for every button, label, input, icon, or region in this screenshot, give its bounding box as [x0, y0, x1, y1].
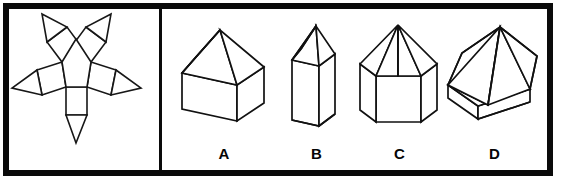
option-a-label: A: [174, 146, 274, 162]
net-pentagonal-prism-pyramid: [12, 14, 141, 143]
net-triangle-right: [111, 70, 141, 95]
options-panel: A: [162, 9, 547, 170]
net-triangle-bottom: [66, 115, 87, 143]
option-b[interactable]: B: [274, 9, 359, 170]
option-a-drawing: [174, 9, 274, 144]
option-c-drawing: [352, 9, 447, 144]
option-c-front-face: [376, 76, 421, 122]
option-b-drawing: [274, 9, 359, 144]
option-b-front-face: [292, 60, 319, 126]
pentagonal-prism-with-pentagonal-pyramid: [360, 25, 437, 122]
net-triangle-left: [12, 70, 42, 95]
tall-prism-with-pyramid-top: [292, 26, 335, 126]
option-b-label: B: [274, 146, 359, 162]
option-a[interactable]: A: [174, 9, 274, 170]
option-c[interactable]: C: [352, 9, 447, 170]
net-drawing: [9, 9, 159, 170]
option-c-label: C: [352, 146, 447, 162]
net-panel: [9, 9, 159, 170]
option-d-drawing: [442, 9, 547, 144]
net-square-bottom: [66, 87, 87, 115]
figure-container: A: [0, 0, 562, 183]
squat-wide-pyramid-on-slab: [448, 27, 537, 119]
option-d[interactable]: D: [442, 9, 547, 170]
box-with-pyramid-roof: [182, 30, 264, 121]
option-b-roof-left: [292, 26, 319, 66]
option-d-label: D: [442, 146, 547, 162]
